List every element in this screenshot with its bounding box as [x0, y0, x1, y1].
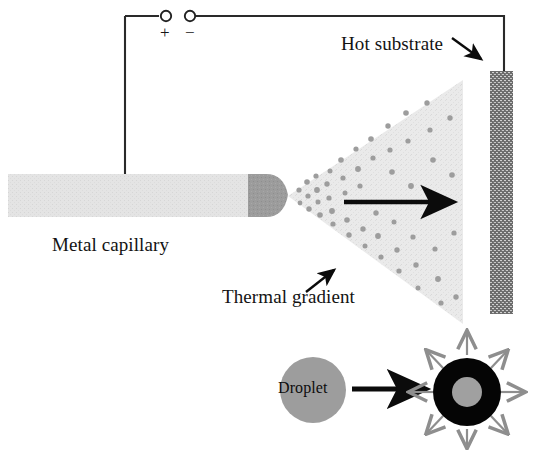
capillary-tip: [248, 174, 288, 217]
droplet-label: Droplet: [278, 379, 328, 397]
capillary-body: [8, 174, 250, 217]
thermal-gradient-label: Thermal gradient: [222, 286, 355, 308]
metal-capillary: [8, 174, 288, 217]
schematic-diagram-canvas: [0, 0, 541, 450]
figure-root: Metal capillary Hot substrate Thermal gr…: [0, 0, 541, 450]
negative-terminal-icon[interactable]: [185, 11, 195, 21]
negative-polarity-label: −: [185, 23, 195, 43]
hot-substrate-label: Hot substrate: [341, 33, 443, 55]
positive-terminal-icon[interactable]: [161, 11, 171, 21]
hot-substrate-bar: [490, 71, 513, 314]
metal-capillary-label: Metal capillary: [52, 234, 169, 256]
evaporating-droplet-core: [452, 377, 482, 407]
hot-substrate-pointer-arrow: [452, 38, 481, 59]
positive-polarity-label: +: [160, 23, 170, 43]
